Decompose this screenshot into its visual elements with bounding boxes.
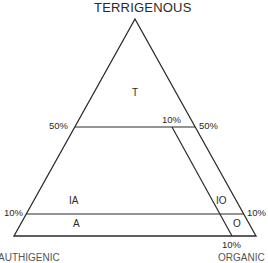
- boundary-10-percent-slanted: [172, 127, 232, 236]
- pct-label-right-10: 10%: [247, 208, 266, 218]
- apex-label-terrigenous: TERRIGENOUS: [94, 1, 192, 14]
- field-label-ia: IA: [69, 196, 78, 206]
- pct-label-bottom-10: 10%: [222, 240, 241, 250]
- pct-label-left-10: 10%: [4, 208, 23, 218]
- field-label-t: T: [132, 88, 138, 98]
- field-label-o: O: [233, 219, 241, 229]
- pct-label-right-50: 50%: [199, 121, 218, 131]
- pct-label-left-50: 50%: [49, 121, 68, 131]
- corner-label-authigenic: AUTHIGENIC: [0, 253, 60, 263]
- corner-label-organic: ORGANIC: [218, 253, 265, 263]
- field-label-io: IO: [216, 196, 227, 206]
- pct-label-inner-10: 10%: [162, 115, 181, 125]
- field-label-a: A: [73, 219, 80, 229]
